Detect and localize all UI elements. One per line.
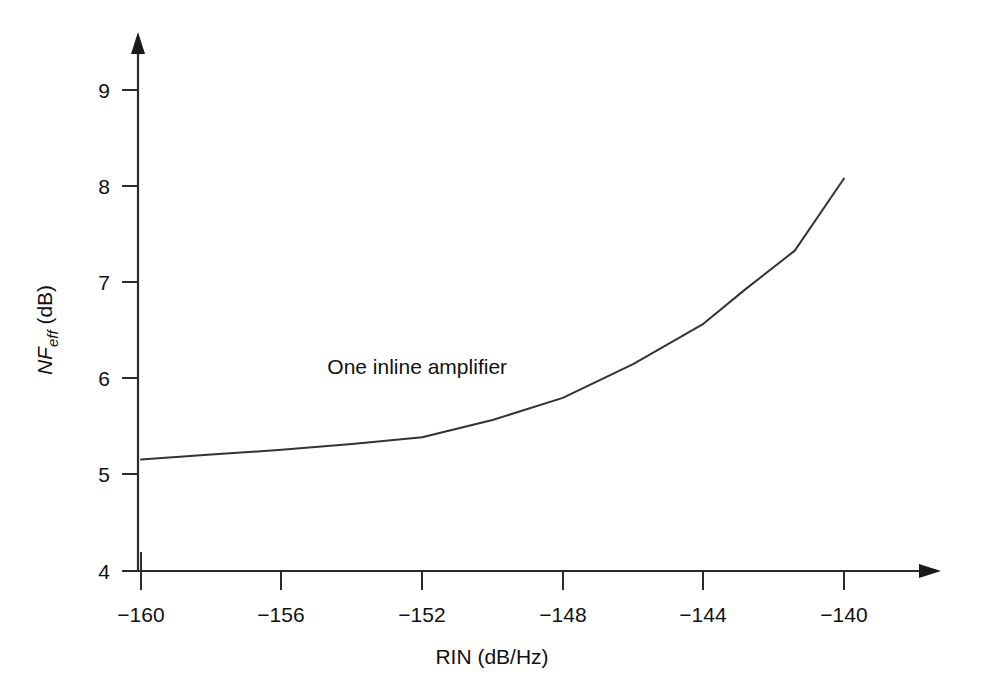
y-tick-label: 4 — [98, 560, 110, 583]
x-axis-arrow-icon — [919, 564, 941, 578]
x-tick-label: −152 — [398, 603, 445, 626]
y-tick-group: 9 8 7 6 5 4 — [98, 79, 138, 583]
figure-container: 9 8 7 6 5 4 −160 −156 −152 −148 −144 −14… — [0, 0, 983, 687]
y-tick-label: 7 — [98, 271, 110, 294]
y-tick-label: 5 — [98, 463, 110, 486]
y-axis-title-main: NF — [33, 346, 56, 375]
x-tick-label: −144 — [679, 603, 727, 626]
x-axis — [125, 564, 941, 578]
y-axis-title: NFeff (dB) — [33, 285, 61, 375]
y-axis — [131, 32, 145, 572]
y-tick-label: 6 — [98, 367, 110, 390]
noise-figure-vs-rin-chart: 9 8 7 6 5 4 −160 −156 −152 −148 −144 −14… — [0, 0, 983, 687]
x-tick-label: −160 — [117, 603, 164, 626]
svg-text:NFeff (dB): NFeff (dB) — [33, 285, 61, 375]
y-axis-title-unit: (dB) — [33, 285, 56, 331]
data-series-line — [141, 179, 844, 460]
plot-annotation-label: One inline amplifier — [327, 355, 507, 378]
x-tick-group: −160 −156 −152 −148 −144 −140 — [117, 552, 867, 626]
y-axis-arrow-icon — [131, 32, 145, 54]
x-tick-label: −156 — [257, 603, 304, 626]
y-tick-label: 8 — [98, 175, 110, 198]
y-tick-label: 9 — [98, 79, 110, 102]
x-tick-label: −140 — [820, 603, 867, 626]
x-axis-title: RIN (dB/Hz) — [435, 645, 548, 668]
x-tick-label: −148 — [539, 603, 586, 626]
